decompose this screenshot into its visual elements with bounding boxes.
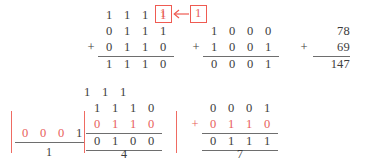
sum-digit: 0: [223, 57, 241, 72]
addend-digit: 0: [240, 101, 258, 116]
addend-digit: 0: [100, 24, 118, 39]
carry-digit: 1: [78, 85, 96, 100]
carry-digit: 1: [96, 85, 114, 100]
carry-in-box-digit-row: 1: [190, 6, 206, 21]
panel-caption: 4: [107, 148, 141, 161]
decimal-addend-bottom: 69: [310, 40, 350, 55]
top-left-sum: 1 1 1 0: [100, 57, 172, 72]
bottom-right-addend-top: 0 0 0 1: [204, 101, 276, 116]
decimal-sum: 147: [310, 57, 350, 72]
addend-digit: 1: [136, 24, 154, 39]
result-digit: 0: [16, 126, 34, 141]
panel-rule: [15, 142, 84, 143]
addend-digit: 0: [222, 101, 240, 116]
result-digit: 0: [52, 126, 70, 141]
addend-digit: 0: [258, 117, 276, 132]
addend-digit: 1: [118, 40, 136, 55]
carry-arrow-icon: [172, 8, 190, 20]
addend-digit: 0: [259, 24, 277, 39]
bottom-left-digits: 0 0 0 1: [16, 126, 88, 141]
carry-digit: 1: [118, 8, 136, 23]
sum-digit: 0: [154, 57, 172, 72]
carry-out-box-digit-row: 1: [155, 6, 171, 21]
addend-digit: 1: [118, 24, 136, 39]
addend-digit: 1: [106, 101, 124, 116]
decimal-addend-top: 78: [310, 24, 350, 39]
addend-digit: 0: [241, 24, 259, 39]
top-left-addend-top: 0 1 1 1: [100, 24, 172, 39]
addend-digit: 1: [205, 24, 223, 39]
plus-sign: +: [298, 40, 310, 55]
addend-digit: 1: [88, 101, 106, 116]
carry-digit: 1: [114, 85, 132, 100]
addend-digit: 1: [222, 117, 240, 132]
bottom-right-addend-bottom: 0 1 1 0: [204, 117, 276, 132]
top-right-sum: 0 0 0 1: [205, 57, 277, 72]
result-digit: 0: [34, 126, 52, 141]
plus-sign: +: [85, 40, 97, 55]
carry-in-digit: 1: [190, 6, 206, 21]
sum-digit: 0: [88, 134, 106, 149]
top-right-addend-bottom: 1 0 0 1: [205, 40, 277, 55]
addend-digit: 0: [88, 117, 106, 132]
carry-digit: 1: [100, 8, 118, 23]
plus-sign: +: [190, 40, 202, 55]
addend-digit: 1: [124, 101, 142, 116]
addend-digit: 0: [223, 40, 241, 55]
carry-digit: 1: [136, 8, 154, 23]
panel-separator-bar: [176, 111, 177, 153]
plus-sign: +: [189, 117, 201, 132]
sum-digit: 1: [259, 57, 277, 72]
panel-caption: 1: [32, 146, 66, 159]
addend-digit: 1: [240, 117, 258, 132]
addend-digit: 1: [205, 40, 223, 55]
addend-digit: 0: [142, 117, 160, 132]
addend-digit: 1: [259, 40, 277, 55]
sum-digit: 0: [142, 134, 160, 149]
addend-digit: 0: [154, 40, 172, 55]
addend-digit: 1: [106, 117, 124, 132]
carry-out-digit: 1: [155, 6, 171, 21]
bottom-middle-carry-row: 1 1 1: [78, 85, 132, 100]
sum-digit: 0: [205, 57, 223, 72]
sum-digit: 1: [118, 57, 136, 72]
addend-digit: 1: [136, 40, 154, 55]
sum-digit: 1: [136, 57, 154, 72]
top-right-addend-top: 1 0 0 0: [205, 24, 277, 39]
figure-canvas: 1 1 1 1 0 1 1 1 + 0 1 1 0 1 1 1 0: [0, 0, 374, 163]
bottom-middle-addend-bottom: 0 1 1 0: [88, 117, 160, 132]
sum-digit: 1: [258, 134, 276, 149]
panel-separator-bar: [11, 111, 12, 153]
addend-digit: 1: [258, 101, 276, 116]
addend-digit: 0: [204, 101, 222, 116]
sum-digit: 0: [204, 134, 222, 149]
addend-digit: 1: [124, 117, 142, 132]
addend-digit: 1: [154, 24, 172, 39]
addend-digit: 0: [223, 24, 241, 39]
sum-digit: 1: [100, 57, 118, 72]
addend-digit: 0: [142, 101, 160, 116]
bottom-middle-addend-top: 1 1 1 0: [88, 101, 160, 116]
addend-digit: 0: [241, 40, 259, 55]
sum-digit: 0: [241, 57, 259, 72]
addend-digit: 0: [204, 117, 222, 132]
addend-digit: 0: [100, 40, 118, 55]
top-left-addend-bottom: 0 1 1 0: [100, 40, 172, 55]
panel-caption: 7: [223, 148, 257, 161]
